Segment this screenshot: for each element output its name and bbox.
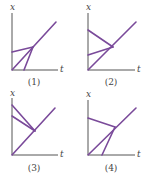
graph-panel-4: xt(4) — [86, 89, 141, 173]
panel-number-label: (4) — [105, 163, 118, 173]
t-axis-label: t — [137, 64, 141, 74]
x-axis-label: x — [86, 89, 91, 99]
x-axis-label: x — [10, 88, 15, 98]
worldline-1 — [88, 108, 136, 155]
x-axis-label: x — [10, 2, 15, 12]
graph-panel-2: xt(2) — [86, 2, 141, 87]
panel-number-label: (3) — [28, 163, 41, 173]
graph-panel-3: xt(3) — [10, 88, 64, 173]
panel-number-label: (1) — [28, 77, 41, 87]
t-axis-label: t — [60, 149, 64, 159]
worldline-2 — [88, 118, 115, 127]
worldline-3 — [88, 47, 113, 55]
worldline-3 — [102, 127, 115, 155]
worldline-2 — [88, 30, 113, 47]
worldline-diagram-figure: xt(1)xt(2)xt(3)xt(4) — [0, 0, 153, 177]
diagram-canvas: xt(1)xt(2)xt(3)xt(4) — [0, 0, 153, 177]
worldline-1 — [12, 22, 56, 70]
x-axis-label: x — [86, 2, 91, 12]
t-axis-label: t — [60, 64, 64, 74]
worldline-3 — [24, 47, 33, 70]
worldline-1 — [12, 108, 55, 155]
t-axis-label: t — [137, 149, 141, 159]
panel-number-label: (2) — [105, 77, 118, 87]
graph-panel-1: xt(1) — [10, 2, 64, 87]
